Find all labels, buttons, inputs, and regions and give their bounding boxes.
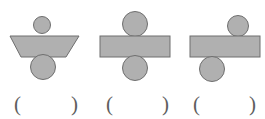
figure-3-diagram <box>180 0 265 90</box>
figure-2-answer-left-paren: ( <box>106 94 113 115</box>
figure-1-answer-right-paren: ) <box>71 94 78 115</box>
figure-2-answer-right-paren: ) <box>162 94 169 115</box>
worksheet-canvas: ( ) ( ) ( ) <box>0 0 265 119</box>
figure-1-top-circle <box>34 17 51 34</box>
figure-2-top-circle <box>123 12 148 37</box>
figure-3-rectangle-body <box>190 36 260 57</box>
figure-2-rectangle-body <box>100 36 170 57</box>
figure-3-group: ( ) <box>180 0 265 119</box>
figure-2-bottom-circle <box>123 56 148 81</box>
figure-1-answer-left-paren: ( <box>14 94 21 115</box>
figure-2-group: ( ) <box>90 0 178 119</box>
figure-1-bottom-circle <box>31 55 56 80</box>
figure-3-bottom-circle <box>200 57 225 82</box>
figure-1-group: ( ) <box>0 0 88 119</box>
figure-3-answer-right-paren: ) <box>249 94 256 115</box>
figure-1-diagram <box>0 0 88 90</box>
figure-1-trapezoid-body <box>10 36 79 57</box>
figure-3-answer-left-paren: ( <box>193 94 200 115</box>
figure-3-top-circle <box>228 16 249 37</box>
figure-2-diagram <box>90 0 178 90</box>
